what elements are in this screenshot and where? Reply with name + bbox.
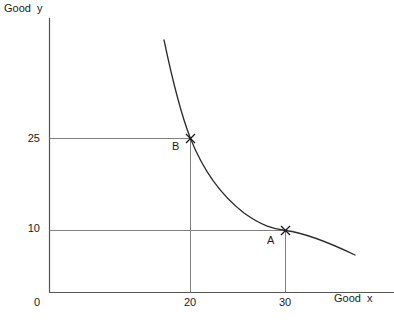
origin-label: 0 [14, 296, 40, 308]
y-axis-title: Good y [4, 2, 43, 14]
y-tick-label-10: 10 [14, 222, 40, 234]
x-tick-label-20: 20 [176, 296, 204, 308]
point-label-a: A [267, 234, 274, 246]
indifference-curve [164, 40, 355, 255]
x-axis-title: Good x [334, 292, 373, 304]
point-label-b: B [172, 140, 179, 152]
x-tick-label-30: 30 [271, 296, 299, 308]
plot-area [0, 0, 394, 323]
indifference-curve-figure: Good y Good x 25 10 0 20 30 B A [0, 0, 394, 323]
y-tick-label-25: 25 [14, 132, 40, 144]
